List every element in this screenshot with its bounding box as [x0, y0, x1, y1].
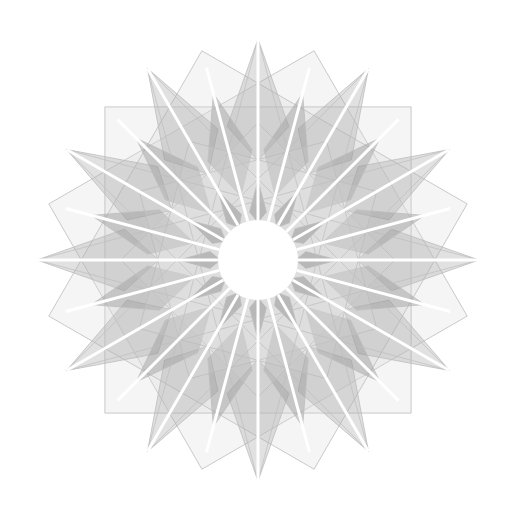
star-rosette [37, 39, 479, 481]
center-disk [218, 220, 298, 300]
geometric-star-artwork [0, 0, 518, 507]
